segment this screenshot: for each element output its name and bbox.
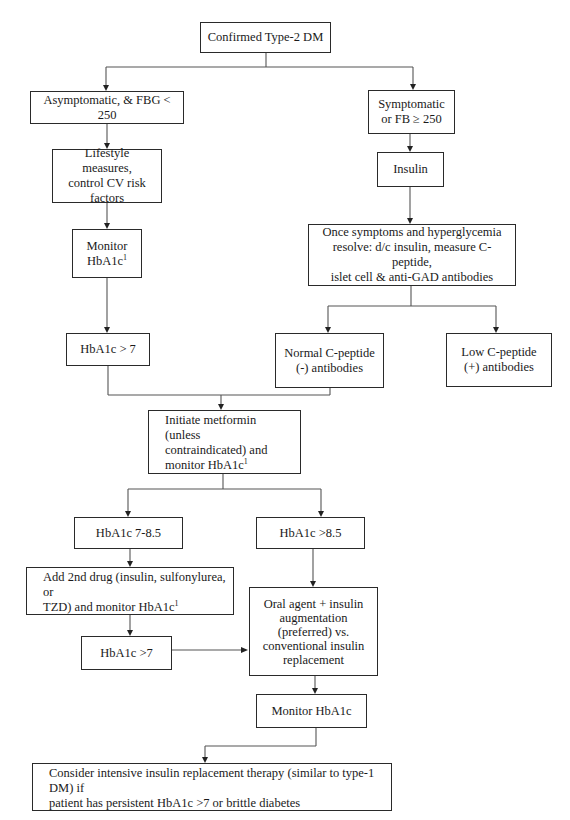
node-label: replacement <box>283 653 344 667</box>
node-label: HbA1c1 <box>87 254 127 269</box>
node-label: (-) antibodies <box>296 361 363 376</box>
node-label: factors <box>90 191 124 206</box>
node-label: Symptomatic <box>378 97 445 112</box>
node-label: conventional insulin <box>263 639 365 653</box>
node-label: patient has persistent HbA1c >7 or britt… <box>49 796 300 811</box>
node-symptomatic: Symptomatic or FB ≥ 250 <box>368 90 455 134</box>
node-label: Asymptomatic, & FBG < 250 <box>37 93 177 123</box>
footnote-marker: 1 <box>175 599 179 608</box>
footnote-marker: 1 <box>123 252 127 261</box>
node-label: HbA1c 7-8.5 <box>96 526 161 541</box>
node-asymptomatic: Asymptomatic, & FBG < 250 <box>30 91 184 124</box>
node-label: Initiate metformin (unless <box>165 413 294 443</box>
node-label: HbA1c >7 <box>100 646 153 661</box>
node-label: HbA1c > 7 <box>80 342 136 357</box>
node-label-text: TZD) and monitor HbA1c <box>43 600 175 614</box>
node-label: Lifestyle measures, <box>59 146 155 176</box>
node-label-text: HbA1c <box>87 254 123 268</box>
node-initiate-metformin: Initiate metformin (unless contraindicat… <box>148 410 301 474</box>
node-label: or FB ≥ 250 <box>381 112 442 127</box>
node-label: Once symptoms and hyperglycemia <box>322 225 501 240</box>
node-label: Confirmed Type-2 DM <box>208 30 324 45</box>
node-insulin: Insulin <box>377 152 444 187</box>
node-add-second-drug: Add 2nd drug (insulin, sulfonylurea, or … <box>26 567 234 615</box>
node-label: Normal C-peptide <box>284 346 375 361</box>
node-oral-agent-insulin: Oral agent + insulin augmentation (prefe… <box>249 587 378 676</box>
node-hba1c-gt-7-b: HbA1c >7 <box>81 636 172 670</box>
node-label: augmentation <box>279 611 347 625</box>
footnote-marker: 1 <box>244 457 248 466</box>
node-label: (preferred) vs. <box>278 625 349 639</box>
node-label: islet cell & anti-GAD antibodies <box>331 270 493 285</box>
node-label: contraindicated) and <box>165 443 267 458</box>
node-label: Monitor <box>87 239 128 254</box>
node-label: Oral agent + insulin <box>264 597 364 611</box>
node-label: resolve: d/c insulin, measure C-peptide, <box>315 240 509 270</box>
node-hba1c-7-8-5: HbA1c 7-8.5 <box>74 517 183 549</box>
node-monitor-hba1c-2: Monitor HbA1c <box>256 694 367 728</box>
node-normal-c-peptide: Normal C-peptide (-) antibodies <box>275 333 384 388</box>
node-hba1c-gt-7: HbA1c > 7 <box>66 333 150 366</box>
node-low-c-peptide: Low C-peptide (+) antibodies <box>446 333 552 387</box>
node-lifestyle-measures: Lifestyle measures, control CV risk fact… <box>52 149 162 203</box>
node-consider-intensive-insulin: Consider intensive insulin replacement t… <box>32 763 392 811</box>
node-label: Low C-peptide <box>461 345 536 360</box>
node-label: (+) antibodies <box>464 360 534 375</box>
node-label: TZD) and monitor HbA1c1 <box>43 600 179 615</box>
node-label: Monitor HbA1c <box>271 704 351 719</box>
node-monitor-hba1c-1: Monitor HbA1c1 <box>72 229 142 278</box>
node-label: Add 2nd drug (insulin, sulfonylurea, or <box>43 570 227 600</box>
node-label: HbA1c >8.5 <box>280 526 342 541</box>
node-once-symptoms-resolve: Once symptoms and hyperglycemia resolve:… <box>308 224 516 286</box>
node-confirmed-type2-dm: Confirmed Type-2 DM <box>200 22 331 53</box>
node-label: Consider intensive insulin replacement t… <box>49 766 385 796</box>
node-label-text: monitor HbA1c <box>165 458 244 472</box>
node-label: control CV risk <box>68 176 146 191</box>
node-label: monitor HbA1c1 <box>165 458 248 473</box>
node-hba1c-gt-8-5: HbA1c >8.5 <box>256 517 365 549</box>
node-label: Insulin <box>393 162 428 177</box>
